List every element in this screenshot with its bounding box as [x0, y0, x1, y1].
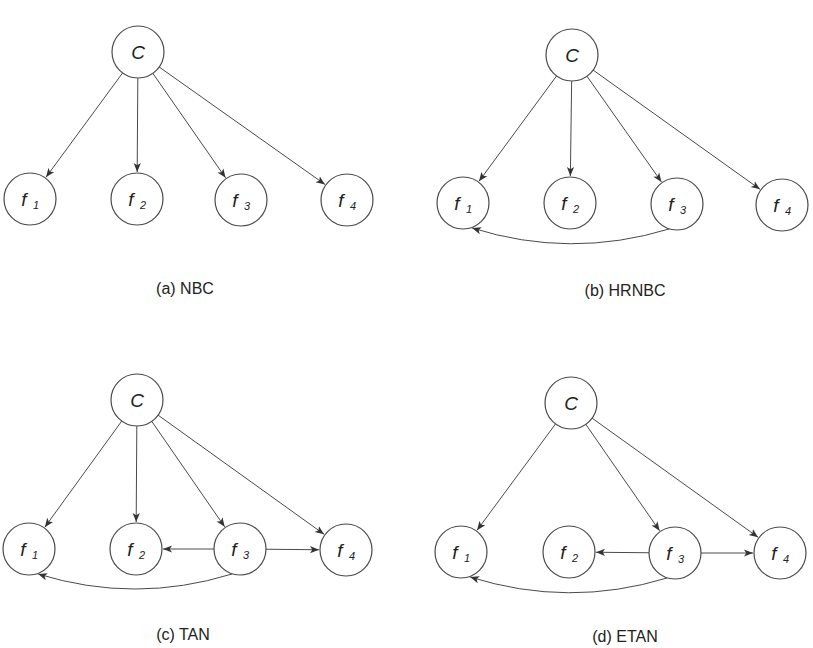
- edge-c-to-f2: [570, 81, 571, 176]
- edge-c-to-f4: [592, 418, 758, 537]
- node-label: C: [565, 45, 579, 66]
- node-subscript: 2: [572, 203, 579, 215]
- node-f4: f4: [756, 179, 808, 231]
- node-subscript: 3: [244, 200, 251, 212]
- panel-a: Cf1f2f3f4(a) NBC: [4, 26, 373, 297]
- node-circle: [543, 526, 595, 578]
- edge-c-to-f1: [479, 76, 557, 181]
- node-c: C: [546, 29, 598, 81]
- panel-d: Cf1f2f3f4(d) ETAN: [435, 377, 806, 645]
- node-circle: [321, 174, 373, 226]
- node-subscript: 3: [678, 553, 685, 565]
- node-f2: f2: [111, 173, 163, 225]
- panel-c: Cf1f2f3f4(c) TAN: [3, 374, 372, 643]
- node-f3: f3: [214, 523, 266, 575]
- node-subscript: 1: [33, 199, 39, 211]
- node-circle: [435, 526, 487, 578]
- node-subscript: 4: [783, 553, 789, 565]
- edge-f3-to-f2: [596, 552, 649, 553]
- panel-caption: (d) ETAN: [592, 628, 657, 645]
- node-f4: f4: [321, 174, 373, 226]
- node-circle: [651, 178, 703, 230]
- node-subscript: 4: [350, 200, 356, 212]
- node-f4: f4: [754, 527, 806, 579]
- node-f3: f3: [649, 527, 701, 579]
- node-circle: [215, 174, 267, 226]
- edge-c-to-f4: [159, 67, 325, 184]
- node-label: C: [130, 390, 144, 411]
- edge-f3-to-f1: [38, 574, 232, 589]
- panel-caption: (b) HRNBC: [585, 282, 666, 299]
- node-c: C: [111, 374, 163, 426]
- node-f2: f2: [543, 526, 595, 578]
- node-circle: [4, 173, 56, 225]
- node-f2: f2: [110, 523, 162, 575]
- node-label: C: [564, 393, 578, 414]
- node-circle: [110, 523, 162, 575]
- node-c: C: [545, 377, 597, 429]
- node-subscript: 3: [243, 549, 250, 561]
- node-subscript: 4: [785, 205, 791, 217]
- node-f3: f3: [215, 174, 267, 226]
- node-f4: f4: [320, 524, 372, 576]
- node-subscript: 1: [464, 552, 470, 564]
- node-subscript: 2: [571, 552, 578, 564]
- edge-c-to-f1: [477, 424, 556, 530]
- panel-caption: (a) NBC: [156, 280, 214, 297]
- node-subscript: 3: [680, 204, 687, 216]
- node-circle: [214, 523, 266, 575]
- node-c: C: [112, 26, 164, 78]
- edge-c-to-f3: [153, 73, 226, 177]
- node-circle: [3, 523, 55, 575]
- node-f2: f2: [544, 177, 596, 229]
- node-circle: [111, 173, 163, 225]
- edge-c-to-f2: [137, 78, 138, 172]
- node-subscript: 2: [138, 549, 145, 561]
- node-f3: f3: [651, 178, 703, 230]
- edge-c-to-f1: [45, 421, 122, 527]
- node-circle: [320, 524, 372, 576]
- node-subscript: 4: [349, 550, 355, 562]
- node-f1: f1: [435, 526, 487, 578]
- edge-c-to-f2: [136, 426, 137, 522]
- panel-caption: (c) TAN: [156, 626, 210, 643]
- panel-b: Cf1f2f3f4(b) HRNBC: [437, 29, 808, 299]
- node-f1: f1: [3, 523, 55, 575]
- node-f1: f1: [4, 173, 56, 225]
- node-subscript: 1: [32, 549, 38, 561]
- node-subscript: 2: [139, 199, 146, 211]
- edge-f3-to-f4: [266, 549, 319, 550]
- node-circle: [756, 179, 808, 231]
- edge-f3-to-f1: [470, 577, 667, 593]
- edge-c-to-f4: [593, 70, 760, 189]
- node-circle: [544, 177, 596, 229]
- node-circle: [437, 177, 489, 229]
- node-subscript: 1: [466, 203, 472, 215]
- edge-c-to-f4: [158, 415, 324, 534]
- node-circle: [649, 527, 701, 579]
- node-circle: [754, 527, 806, 579]
- edge-f3-to-f1: [472, 228, 669, 244]
- node-f1: f1: [437, 177, 489, 229]
- edge-c-to-f1: [46, 73, 123, 177]
- bayesian-network-figure: Cf1f2f3f4(a) NBCCf1f2f3f4(b) HRNBCCf1f2f…: [0, 0, 813, 648]
- node-label: C: [131, 42, 145, 63]
